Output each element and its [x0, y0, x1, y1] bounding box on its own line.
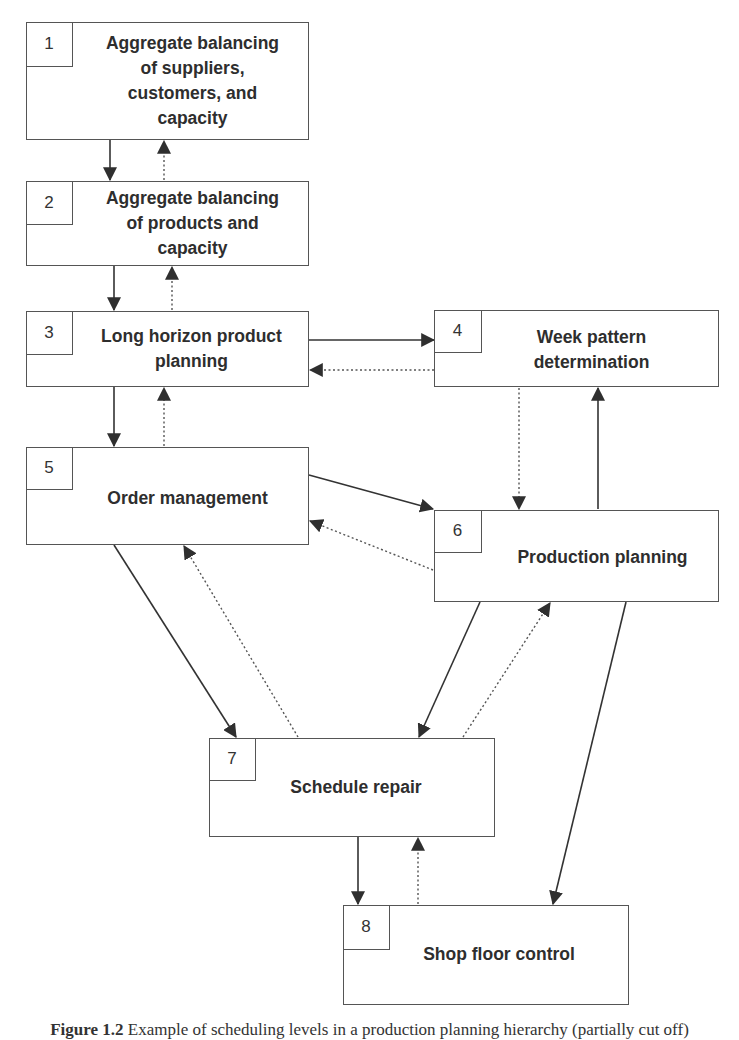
box-number: 6 — [434, 510, 482, 553]
box-label: Long horizon product planning — [79, 324, 304, 374]
box-label: Production planning — [487, 545, 718, 570]
box-label: Shop floor control — [384, 942, 614, 967]
arrow-7-to-5 — [184, 546, 298, 737]
arrow-5-to-6 — [309, 475, 433, 509]
box-number: 5 — [26, 447, 73, 490]
box-label: Order management — [77, 486, 298, 511]
arrow-7-to-6 — [463, 603, 550, 737]
box-number: 8 — [343, 905, 390, 950]
box-label: Schedule repair — [240, 775, 472, 800]
box-number: 4 — [434, 310, 482, 353]
figure-caption: Figure 1.2 Example of scheduling levels … — [0, 1020, 739, 1040]
caption-text: Example of scheduling levels in a produc… — [128, 1020, 689, 1039]
arrow-5-to-7 — [114, 545, 236, 737]
box-label: Aggregate balancing of products and capa… — [83, 186, 302, 261]
box-order-management: 5 Order management — [26, 447, 309, 545]
box-label: Week pattern determination — [495, 325, 688, 375]
arrow-6-to-8 — [553, 602, 626, 904]
arrow-6-to-5 — [310, 521, 433, 570]
box-schedule-repair: 7 Schedule repair — [209, 738, 495, 837]
arrow-6-to-7 — [419, 602, 480, 737]
box-aggregate-products: 2 Aggregate balancing of products and ca… — [26, 181, 309, 266]
box-production-planning: 6 Production planning — [434, 510, 719, 602]
box-number: 3 — [26, 311, 73, 355]
box-long-horizon-planning: 3 Long horizon product planning — [26, 311, 309, 387]
box-shop-floor-control: 8 Shop floor control — [343, 905, 629, 1005]
box-week-pattern: 4 Week pattern determination — [434, 310, 719, 387]
box-label: Aggregate balancing of suppliers, custom… — [83, 31, 302, 131]
box-number: 1 — [26, 22, 73, 67]
caption-prefix: Figure 1.2 — [50, 1020, 123, 1039]
box-aggregate-suppliers: 1 Aggregate balancing of suppliers, cust… — [26, 22, 309, 140]
box-number: 2 — [26, 181, 73, 225]
